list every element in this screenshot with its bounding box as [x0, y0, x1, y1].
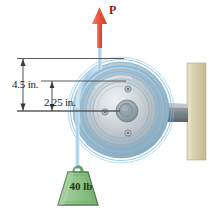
- pulley-wheel: [68, 57, 174, 163]
- figure-root: 4.5 in. 2.25 in. P 40 lb: [0, 0, 218, 213]
- dimension-label-inner-radius: 2.25 in.: [44, 96, 76, 108]
- weight-label: 40 lb: [61, 180, 101, 192]
- mechanics-diagram-svg: [0, 0, 218, 213]
- dimension-label-outer-radius: 4.5 in.: [12, 78, 38, 90]
- force-arrow-p: [92, 7, 107, 48]
- wall-plate: [187, 63, 206, 160]
- force-label-p: P: [109, 3, 116, 18]
